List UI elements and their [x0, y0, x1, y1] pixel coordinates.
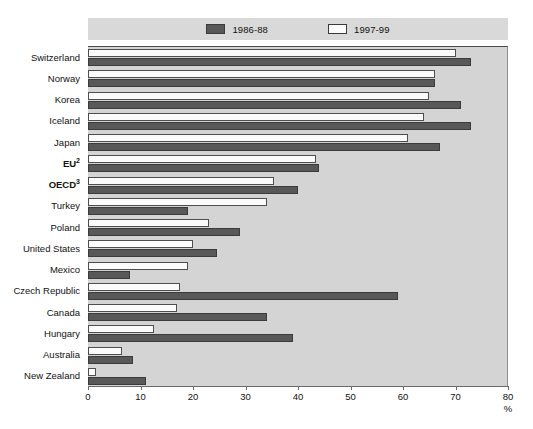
y-axis-label-poland: Poland: [50, 221, 80, 232]
x-axis-tick-label: 40: [293, 391, 304, 402]
bar-group: [88, 281, 507, 302]
bar-group: [88, 238, 507, 259]
bar-1986-88: [88, 143, 440, 151]
bar-1986-88: [88, 207, 188, 215]
bar-1997-99: [88, 49, 456, 57]
bar-group: [88, 132, 507, 153]
x-axis-tick-label: 10: [135, 391, 146, 402]
bar-group: [88, 47, 507, 68]
bar-1997-99: [88, 283, 180, 291]
bar-1986-88: [88, 313, 267, 321]
bar-1986-88: [88, 292, 398, 300]
bar-group: [88, 217, 507, 238]
bar-1986-88: [88, 377, 146, 385]
bar-group: [88, 345, 507, 366]
bar-group: [88, 68, 507, 89]
bar-1997-99: [88, 262, 188, 270]
y-axis-label-australia: Australia: [43, 349, 80, 360]
bar-group: [88, 196, 507, 217]
legend-swatch-light-icon: [328, 24, 347, 34]
bar-group: [88, 302, 507, 323]
bar-group: [88, 366, 507, 387]
bar-1997-99: [88, 347, 122, 355]
bar-1997-99: [88, 325, 154, 333]
y-axis-label-united-states: United States: [23, 242, 80, 253]
bar-1997-99: [88, 198, 267, 206]
bar-1986-88: [88, 122, 471, 130]
y-axis-label-switzerland: Switzerland: [31, 51, 80, 62]
legend-item-1997-99: 1997-99: [328, 24, 390, 35]
bar-1997-99: [88, 177, 274, 185]
bar-1986-88: [88, 228, 240, 236]
bar-1986-88: [88, 249, 217, 257]
bar-1997-99: [88, 155, 316, 163]
bar-group: [88, 90, 507, 111]
y-axis-label-new-zealand: New Zealand: [24, 370, 80, 381]
y-axis-label-japan: Japan: [54, 136, 80, 147]
y-axis-label-czech-republic: Czech Republic: [13, 285, 80, 296]
bar-1986-88: [88, 79, 435, 87]
bar-group: [88, 323, 507, 344]
legend-item-1986-88: 1986-88: [206, 24, 268, 35]
bar-1986-88: [88, 58, 471, 66]
x-axis-tick-label: 70: [450, 391, 461, 402]
legend-label-1986-88: 1986-88: [232, 24, 268, 35]
y-axis-label-mexico: Mexico: [50, 264, 80, 275]
x-axis-tick-label: 30: [240, 391, 251, 402]
y-axis-label-korea: Korea: [55, 94, 80, 105]
x-axis-tick-label: 80: [503, 391, 514, 402]
legend-swatch-dark-icon: [206, 24, 225, 34]
bar-group: [88, 111, 507, 132]
y-axis-label-canada: Canada: [47, 306, 80, 317]
x-axis-tick-label: 60: [398, 391, 409, 402]
bar-group: [88, 260, 507, 281]
bar-1986-88: [88, 356, 133, 364]
x-axis-tick-label: 0: [85, 391, 90, 402]
y-axis-label-eu: EU2: [63, 157, 80, 169]
y-axis-label-hungary: Hungary: [44, 327, 80, 338]
bar-1997-99: [88, 368, 96, 376]
bar-1986-88: [88, 186, 298, 194]
y-axis-label-oecd: OECD3: [49, 178, 80, 190]
plot-area: [88, 46, 508, 386]
bar-group: [88, 175, 507, 196]
y-axis-label-norway: Norway: [48, 72, 80, 83]
y-axis-label-turkey: Turkey: [51, 200, 80, 211]
bar-1997-99: [88, 240, 193, 248]
bars-layer: [88, 47, 507, 386]
y-axis-label-iceland: Iceland: [49, 115, 80, 126]
chart-legend: 1986-88 1997-99: [88, 18, 508, 40]
bar-1997-99: [88, 134, 408, 142]
bar-1986-88: [88, 164, 319, 172]
bar-group: [88, 153, 507, 174]
bar-1997-99: [88, 113, 424, 121]
bar-1997-99: [88, 304, 177, 312]
bar-1986-88: [88, 271, 130, 279]
x-tick: [508, 386, 509, 390]
axis-unit-label: %: [504, 403, 512, 414]
legend-label-1997-99: 1997-99: [354, 24, 390, 35]
y-axis-labels: SwitzerlandNorwayKoreaIcelandJapanEU2OEC…: [0, 46, 84, 386]
bar-1986-88: [88, 101, 461, 109]
bar-1997-99: [88, 92, 429, 100]
chart-container: 1986-88 1997-99 SwitzerlandNorwayKoreaIc…: [0, 0, 533, 429]
bar-1986-88: [88, 334, 293, 342]
bar-1997-99: [88, 219, 209, 227]
x-axis-tick-label: 50: [345, 391, 356, 402]
bar-1997-99: [88, 70, 435, 78]
x-axis-tick-label: 20: [188, 391, 199, 402]
